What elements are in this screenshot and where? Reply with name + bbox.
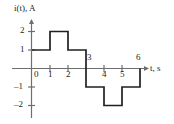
y-tick-label-2: 2 (20, 26, 25, 35)
x-tick-label-5: 5 (120, 70, 125, 79)
y-axis-label-rest: ), A (22, 3, 36, 13)
x-tick-label-6: 6 (136, 53, 141, 62)
x-tick-label-3: 3 (87, 53, 92, 62)
plot-canvas (0, 0, 174, 124)
x-axis-label: t, s (150, 64, 161, 73)
y-tick-label-minus-1: –1 (14, 82, 23, 91)
waveform-figure: i(t), A t, s 2 1 –1 –2 0 1 2 3 4 5 6 (0, 0, 174, 124)
x-tick-label-4: 4 (102, 70, 107, 79)
x-tick-label-0: 0 (34, 70, 39, 79)
y-tick-label-1: 1 (20, 45, 25, 54)
x-axis-label-rest: , s (153, 63, 161, 73)
y-axis-label: i(t), A (14, 4, 36, 13)
x-tick-label-1: 1 (48, 70, 53, 79)
y-tick-label-minus-2: –2 (14, 100, 23, 109)
x-tick-label-2: 2 (66, 70, 71, 79)
